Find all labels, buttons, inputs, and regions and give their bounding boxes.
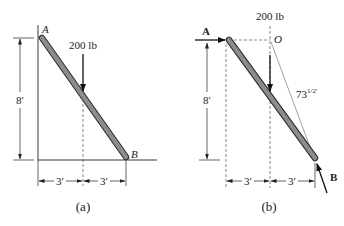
caption-a-text: (a) — [76, 199, 90, 214]
diag-dim-base: 73 — [296, 88, 308, 100]
panel-b: 8′ A O 200 lb 731/2′ B 3′ 3′ (b) — [195, 10, 338, 214]
b-force-label: 200 lb — [256, 10, 284, 22]
b-point-a-label: A — [202, 25, 210, 37]
diagram-canvas: 8′ A B 200 lb 3′ 3′ (a) — [0, 0, 344, 226]
diag-dim-label: 731/2′ — [296, 87, 318, 100]
height-dim-label: 8′ — [16, 94, 24, 106]
b-height-dim-label: 8′ — [203, 94, 211, 106]
caption-a: (a) — [76, 199, 90, 214]
point-b-label: B — [131, 148, 138, 160]
caption-b: (b) — [261, 199, 276, 214]
diag-dim-exp: 1/2′ — [307, 87, 318, 95]
panel-a: 8′ A B 200 lb 3′ 3′ (a) — [13, 23, 157, 214]
b-dim1-label: 3′ — [244, 175, 252, 187]
diag-o-to-b — [271, 42, 314, 158]
b-dim2-label: 3′ — [288, 175, 296, 187]
pivot-o-label: O — [274, 33, 282, 45]
rod — [42, 38, 126, 157]
point-a-label: A — [41, 23, 49, 35]
b-point-b-label: B — [330, 171, 338, 183]
caption-b-text: (b) — [261, 199, 276, 214]
force-label: 200 lb — [69, 39, 97, 51]
dim2-label: 3′ — [100, 175, 108, 187]
reaction-b-arrow — [317, 164, 327, 193]
dim1-label: 3′ — [56, 175, 64, 187]
